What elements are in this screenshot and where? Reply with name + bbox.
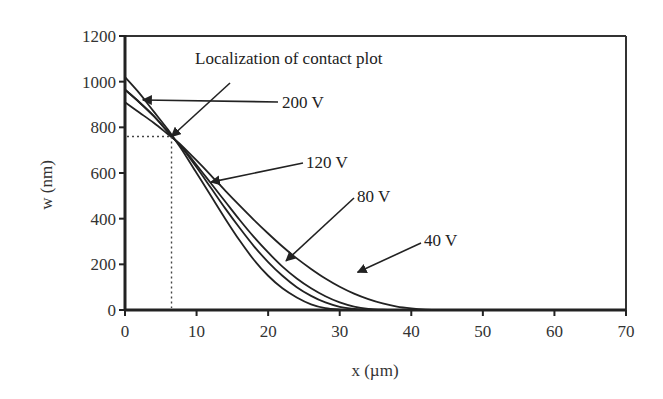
annotation-arrow (286, 198, 354, 261)
curve-40v (125, 102, 569, 310)
x-axis-title: x (µm) (351, 361, 398, 380)
y-tick-label: 1000 (82, 73, 116, 92)
annotation-arrow (143, 100, 278, 102)
y-tick-label: 600 (91, 164, 117, 183)
x-tick-label: 50 (474, 322, 491, 341)
annotation-label: 120 V (306, 153, 348, 172)
annotation-label: 80 V (357, 187, 391, 206)
x-tick-label: 40 (403, 322, 420, 341)
axis-ticks: 020040060080010001200010203040506070 (82, 27, 635, 341)
y-tick-label: 200 (91, 255, 117, 274)
annotation-label: 200 V (282, 93, 324, 112)
curve-200v (125, 77, 569, 310)
y-tick-label: 0 (108, 301, 117, 320)
x-tick-label: 20 (260, 322, 277, 341)
x-tick-label: 60 (546, 322, 563, 341)
x-tick-label: 30 (331, 322, 348, 341)
annotation-arrow (211, 163, 303, 182)
x-tick-label: 70 (618, 322, 635, 341)
x-tick-label: 0 (121, 322, 130, 341)
annotations: Localization of contact plot200 V120 V80… (143, 49, 458, 272)
x-tick-label: 10 (188, 322, 205, 341)
data-curves (125, 77, 569, 310)
curve-120v (125, 90, 569, 310)
annotation-arrow (358, 243, 421, 272)
chart: 020040060080010001200010203040506070 Loc… (0, 0, 663, 399)
curve-80v (125, 90, 569, 310)
annotation-label: Localization of contact plot (195, 49, 383, 68)
contact-guide-lines (127, 136, 172, 308)
annotation-arrow (172, 83, 230, 136)
y-tick-label: 1200 (82, 27, 116, 46)
plot-frame (124, 35, 626, 311)
y-tick-label: 800 (91, 118, 117, 137)
y-axis-title: w (nm) (37, 160, 56, 210)
y-tick-label: 400 (91, 210, 117, 229)
annotation-label: 40 V (424, 231, 458, 250)
